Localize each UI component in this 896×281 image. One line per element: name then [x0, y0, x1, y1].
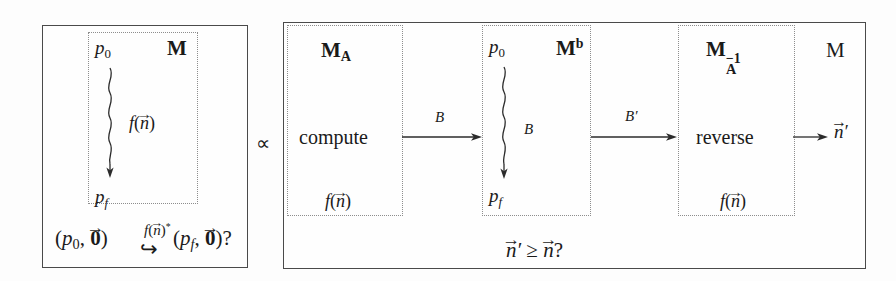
left-panel-final-state-base: p [95, 186, 105, 207]
box-MAinv-fn-label: f(→n) [720, 192, 746, 210]
vector-accent-icon: → [502, 231, 520, 249]
vector-accent-icon: → [151, 217, 164, 230]
left-panel-final-state-sub: f [105, 195, 109, 210]
vector-accent-icon: → [137, 106, 152, 121]
left-panel-bottom-question: (p0, →0) [55, 228, 108, 251]
box-Mb-header-base: M [556, 36, 576, 60]
box-MAinv-header-sub: A [726, 62, 736, 76]
box-Mb-start-state-sub: 0 [499, 45, 505, 60]
arrow-Bp [591, 130, 679, 144]
box-MAinv-action-label: reverse [696, 127, 754, 147]
box-Mb-start-state: p0 [489, 37, 505, 60]
vector-accent-icon: → [539, 231, 557, 249]
hook-right-arrow-icon: ↪ [140, 239, 158, 260]
vector-accent-icon: → [201, 219, 219, 237]
arrow-B-label: B [435, 110, 444, 125]
box-MAinv-header: M−1A [706, 39, 748, 60]
bottom-relation-symbol: ≥ [526, 238, 538, 262]
output-vector-label: →n′ [834, 122, 848, 141]
tuple-open-paren: ( [55, 226, 62, 250]
left-panel-start-state-base: p [95, 37, 105, 58]
arrow-out [793, 130, 829, 144]
box-Mb-final-state-base: p [489, 185, 499, 206]
left-panel: M p0 f(→n) pf (p0, →0) f(→n)* ↪ (pf, →0)… [42, 25, 248, 268]
vector-accent-icon: → [831, 114, 847, 130]
left-panel-machine-label: M [167, 38, 187, 59]
box-Mb-final-state-sub: f [499, 194, 503, 209]
tuple-left-state: p [62, 226, 73, 250]
box-MA-fn-label: f(→n) [325, 192, 351, 210]
box-Mb-final-state: pf [489, 186, 502, 209]
vector-accent-icon: → [728, 184, 743, 199]
left-panel-final-state: pf [95, 187, 108, 210]
box-Mb-start-state-base: p [489, 36, 499, 57]
box-MA-action-label: compute [299, 127, 368, 147]
left-panel-start-state: p0 [95, 38, 111, 61]
right-panel-machine-label: M [826, 40, 845, 61]
left-panel-squiggle-arrow [101, 68, 127, 180]
box-MAinv-header-base: M [706, 37, 726, 61]
arrow-Bp-label: B′ [625, 109, 637, 124]
derivation-label-star: * [166, 221, 171, 232]
box-Mb-squiggle-label: B [524, 122, 533, 137]
vector-accent-icon: → [333, 184, 348, 199]
arrow-B [402, 130, 484, 144]
box-Mb-squiggle-arrow [495, 67, 521, 181]
derivation-arrow-label: f(→n)* [144, 222, 171, 238]
right-panel-bottom-question: →n′ ≥ →n? [506, 240, 563, 261]
left-panel-bottom-target: (pf, →0)? [173, 228, 232, 251]
box-Mb-header: Mb [556, 37, 584, 59]
box-MA-header-sub: A [341, 48, 351, 64]
tuple-question-mark: ? [222, 226, 231, 250]
tuple-right-state: p [180, 226, 191, 250]
box-MA-header: MA [321, 40, 351, 63]
vector-accent-icon: → [86, 219, 104, 237]
box-Mb-header-sup: b [576, 36, 584, 51]
left-panel-run-label: f(→n) [129, 114, 155, 132]
proportional-to-symbol: ∝ [256, 133, 270, 153]
box-MA-header-base: M [321, 38, 341, 62]
right-panel: MA compute f(→n) B Mb p0 B pf [283, 22, 866, 269]
figure-canvas: M p0 f(→n) pf (p0, →0) f(→n)* ↪ (pf, →0)… [0, 0, 896, 281]
tuple-left-state-sub: 0 [73, 236, 80, 252]
left-panel-start-state-sub: 0 [105, 46, 111, 61]
